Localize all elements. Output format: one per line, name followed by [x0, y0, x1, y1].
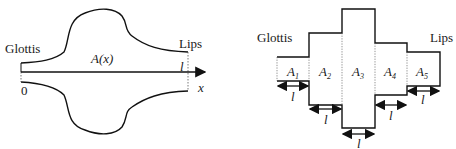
vocal-tract-figure: Glottis Lips A(x) 0 l x Glottis Lips A1 … — [0, 0, 456, 149]
svg-text:l: l — [291, 89, 295, 104]
svg-text:l: l — [357, 136, 361, 149]
section-label-5: A5 — [415, 64, 428, 81]
x-axis-label: x — [197, 80, 204, 95]
continuous-tube-diagram: Glottis Lips A(x) 0 l x — [5, 9, 205, 134]
length-arrows — [278, 86, 439, 134]
discrete-tube-diagram: Glottis Lips A1 A2 A3 A4 A5 l — [257, 9, 453, 149]
length-label: l — [180, 59, 184, 74]
section-label-2: A2 — [318, 64, 331, 81]
svg-text:l: l — [324, 112, 328, 127]
svg-text:l: l — [389, 108, 393, 123]
tube-lower-wall — [21, 82, 188, 134]
svg-text:l: l — [421, 92, 425, 107]
lips-label: Lips — [179, 36, 202, 51]
glottis-label: Glottis — [5, 41, 40, 56]
section-label-1: A1 — [286, 64, 299, 81]
length-labels: l l l l l — [291, 89, 425, 149]
lips-label-right: Lips — [430, 30, 453, 45]
section-label-4: A4 — [383, 64, 396, 81]
glottis-label-right: Glottis — [257, 30, 292, 45]
area-label: A(x) — [90, 51, 113, 66]
origin-label: 0 — [21, 83, 28, 98]
section-label-3: A3 — [351, 64, 364, 81]
